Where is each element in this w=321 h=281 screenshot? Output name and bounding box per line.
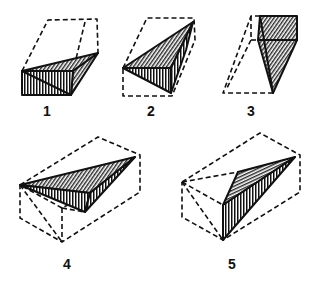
figure-2 bbox=[123, 18, 195, 96]
figure-1 bbox=[22, 19, 98, 95]
figure-label-1: 1 bbox=[43, 104, 51, 118]
section-front-face bbox=[258, 16, 297, 93]
box-dashed-edge bbox=[182, 182, 223, 205]
section-front-face bbox=[123, 68, 171, 93]
figure-label-4: 4 bbox=[63, 257, 71, 271]
figure-4 bbox=[20, 137, 140, 242]
figure-label-3: 3 bbox=[247, 104, 255, 118]
figure-3 bbox=[223, 16, 297, 93]
figure-label-5: 5 bbox=[228, 257, 236, 271]
diagram-canvas bbox=[0, 0, 321, 281]
box-dashed-inner-edge bbox=[226, 40, 251, 90]
figure-5 bbox=[182, 133, 300, 240]
box-dashed-diagonal bbox=[182, 182, 223, 240]
figure-label-2: 2 bbox=[147, 104, 155, 118]
